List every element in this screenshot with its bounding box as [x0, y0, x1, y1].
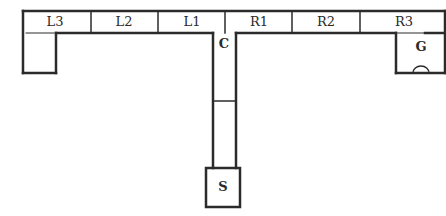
corridor-label-r2: R2 [317, 14, 335, 29]
maze-diagram: L3 L2 L1 R1 R2 R3 C G S [0, 0, 446, 216]
corridor-label-l1: L1 [184, 14, 201, 29]
goal-label: G [415, 39, 426, 54]
corridor-label-r3: R3 [395, 14, 413, 29]
corridor-label-r1: R1 [250, 14, 268, 29]
junction-label: C [219, 36, 229, 51]
corridor-label-l2: L2 [116, 14, 133, 29]
corridor-label-l3: L3 [47, 14, 64, 29]
start-label: S [218, 179, 227, 194]
